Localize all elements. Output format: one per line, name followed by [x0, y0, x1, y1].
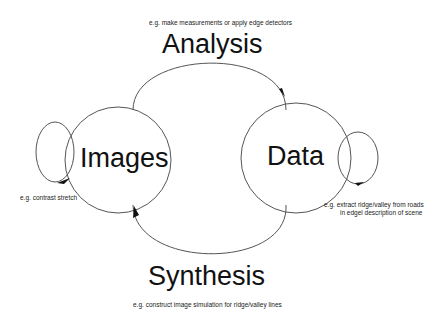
images-node-label: Images: [80, 143, 169, 174]
synthesis-arc: [133, 205, 286, 254]
analysis-example: e.g. make measurements or apply edge det…: [149, 19, 292, 26]
analysis-arrowhead-icon: [279, 88, 285, 97]
analysis-arc: [133, 63, 286, 110]
data-loop: [338, 132, 378, 184]
analysis-label: Analysis: [162, 29, 263, 60]
images-loop: [36, 122, 74, 182]
diagram-canvas: e.g. make measurements or apply edge det…: [0, 0, 447, 321]
synthesis-example: e.g. construct image simulation for ridg…: [133, 301, 282, 308]
data-loop-example-line1: e.g. extract ridge/valley from roads: [324, 201, 424, 208]
synthesis-label: Synthesis: [148, 261, 265, 292]
images-loop-example: e.g. contrast stretch: [20, 194, 77, 201]
data-loop-example-line2: in edgel description of scene: [340, 209, 422, 216]
data-loop-arrowhead-icon: [355, 182, 364, 186]
data-node-label: Data: [267, 141, 324, 172]
synthesis-arrowhead-icon: [133, 206, 139, 218]
